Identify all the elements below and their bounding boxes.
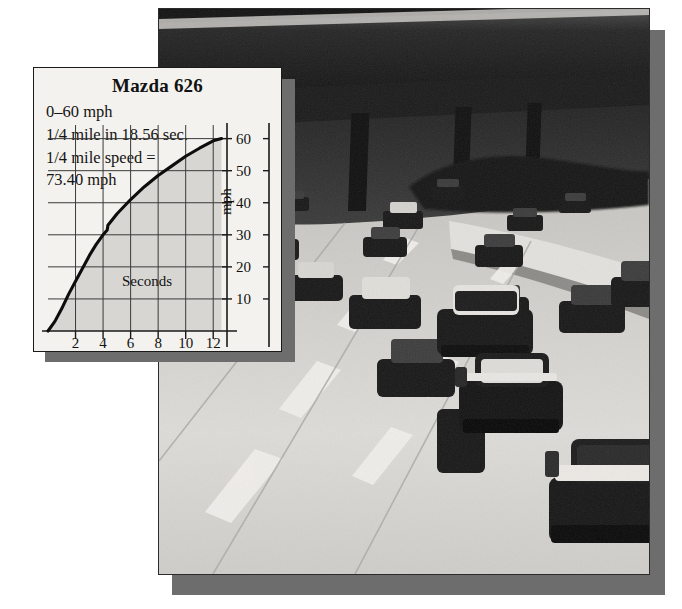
mazda-626-inset-card: Mazda 626 0–60 mph 1/4 mile in 18.56 sec… (33, 67, 282, 352)
svg-text:30: 30 (236, 227, 251, 243)
svg-text:50: 50 (236, 163, 251, 179)
y-tick-labels: 102030405060 (236, 131, 251, 307)
svg-text:6: 6 (127, 335, 135, 351)
svg-text:10: 10 (236, 291, 251, 307)
svg-text:8: 8 (154, 335, 162, 351)
svg-text:20: 20 (236, 259, 251, 275)
x-tick-labels: 24681012 (72, 335, 221, 351)
svg-text:10: 10 (178, 335, 193, 351)
y-axis-label: mph (218, 188, 235, 215)
svg-text:40: 40 (236, 195, 251, 211)
acceleration-chart: 24681012 102030405060 (34, 68, 281, 351)
svg-text:60: 60 (236, 131, 251, 147)
svg-text:12: 12 (206, 335, 221, 351)
x-axis-label: Seconds (122, 273, 172, 290)
svg-text:4: 4 (99, 335, 107, 351)
svg-text:2: 2 (72, 335, 80, 351)
